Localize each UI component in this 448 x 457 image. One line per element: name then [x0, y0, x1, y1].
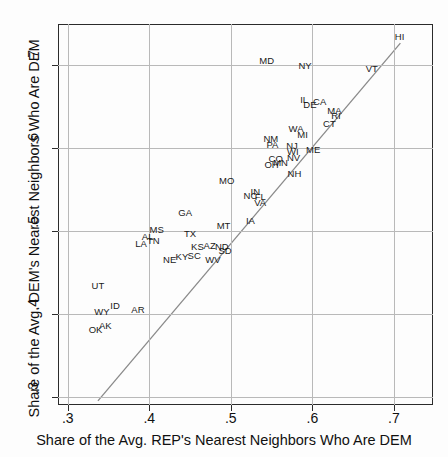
gridline-vertical [312, 24, 313, 405]
x-tick-label: .7 [379, 410, 409, 426]
data-point-label-pa: PA [266, 139, 278, 150]
gridline-vertical [149, 24, 150, 405]
x-axis-title: Share of the Avg. REP's Nearest Neighbor… [0, 432, 448, 448]
x-tick-label: .5 [216, 410, 246, 426]
data-point-label-la: LA [135, 238, 147, 249]
data-point-label-ut: UT [92, 280, 105, 291]
gridline-vertical [394, 24, 395, 405]
data-point-label-ct: CT [323, 117, 336, 128]
data-point-label-az: AZ [204, 239, 216, 250]
data-point-label-tn: TN [147, 234, 160, 245]
data-point-label-va: VA [254, 197, 266, 208]
data-point-label-ca: CA [313, 96, 326, 107]
data-point-label-md: MD [259, 54, 274, 65]
data-point-label-ok: OK [89, 324, 103, 335]
gridline-vertical [68, 24, 69, 405]
gridline-vertical [231, 24, 232, 405]
data-point-label-vt: VT [366, 62, 378, 73]
x-tick-label: .6 [297, 410, 327, 426]
gridline-horizontal [58, 231, 433, 232]
y-tick [52, 397, 58, 398]
data-point-label-oh: OH [264, 159, 278, 170]
scatter-plot-figure: HIVTNYMDILDECAMARICTWAMINMPANJWIMECONVMN… [0, 0, 448, 457]
data-point-label-ia: IA [246, 214, 255, 225]
data-point-label-ky: KY [176, 250, 189, 261]
data-point-label-sc: SC [188, 249, 201, 260]
plot-area: HIVTNYMDILDECAMARICTWAMINMPANJWIMECONVMN… [58, 24, 433, 405]
data-point-label-id: ID [110, 299, 120, 310]
data-point-label-tx: TX [184, 228, 196, 239]
data-point-label-wy: WY [94, 306, 109, 317]
data-point-label-wv: WV [205, 253, 220, 264]
gridline-horizontal [58, 314, 433, 315]
data-point-label-mi: MI [297, 128, 308, 139]
y-tick [52, 231, 58, 232]
gridline-horizontal [58, 148, 433, 149]
gridline-horizontal [58, 397, 433, 398]
x-tick-label: .4 [134, 410, 164, 426]
data-point-label-nh: NH [288, 168, 302, 179]
y-tick [52, 314, 58, 315]
y-tick [52, 148, 58, 149]
data-point-label-nv: NV [287, 151, 300, 162]
data-point-label-ga: GA [178, 206, 192, 217]
data-point-label-ne: NE [163, 253, 176, 264]
data-point-label-mo: MO [219, 175, 234, 186]
data-point-label-ar: AR [131, 303, 144, 314]
data-point-label-ny: NY [298, 59, 311, 70]
data-point-label-mt: MT [217, 219, 231, 230]
y-axis-title: Share of the Avg. DEM's Nearest Neighbor… [22, 0, 46, 457]
x-tick-label: .3 [53, 410, 83, 426]
data-point-label-me: ME [306, 144, 320, 155]
data-point-label-hi: HI [395, 30, 405, 41]
y-tick [52, 65, 58, 66]
